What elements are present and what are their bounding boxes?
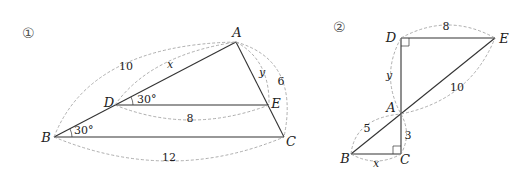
angle-label-B: 30° [74,124,94,137]
label-AD: x [167,58,174,71]
point-C: C [400,152,410,167]
label-DE: 8 [443,20,450,33]
label-DE: 8 [187,112,194,125]
angle-arc-D [131,97,133,105]
geometry-diagram: ① 10 x y 6 8 12 30° 30° A B C D E ② [0,0,528,176]
figure-1: ① 10 x y 6 8 12 30° 30° A B C D E [22,25,296,164]
point-A: A [231,25,241,40]
point-E: E [270,96,281,111]
point-B: B [339,151,350,166]
label-AB: 10 [119,60,133,73]
segment-BE [351,38,495,154]
figure-2-index: ② [333,19,346,35]
figure-1-index: ① [22,25,35,41]
point-E: E [498,31,509,46]
label-AC: 3 [405,129,412,142]
label-AE: y [258,66,266,79]
figure-2: ② 8 y 10 5 3 x A B C D E [333,19,509,170]
angle-label-D: 30° [137,93,157,106]
segment-BA [54,42,236,137]
right-angle-D [401,38,409,46]
label-AC: 6 [278,75,285,88]
label-AD: y [385,69,393,82]
segment-AC [236,42,284,137]
label-AB: 5 [364,122,371,135]
point-A: A [385,100,395,115]
label-BC: x [373,157,380,170]
point-B: B [40,130,51,145]
point-D: D [385,30,397,45]
angle-arc-B [70,129,72,137]
point-D: D [103,95,115,110]
point-C: C [286,134,296,149]
label-BC: 12 [162,151,176,164]
label-AE: 10 [450,81,464,94]
